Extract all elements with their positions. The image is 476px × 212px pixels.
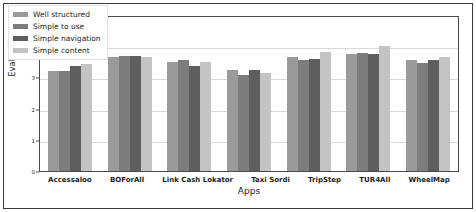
- x-axis-title: Apps: [39, 186, 459, 196]
- legend-swatch: [13, 36, 28, 41]
- chart-legend: Well structuredSimple to useSimple navig…: [8, 5, 108, 60]
- bar-group: [108, 17, 152, 171]
- bar: [406, 60, 417, 171]
- bar: [379, 46, 390, 171]
- bar: [200, 62, 211, 171]
- legend-label: Well structured: [33, 10, 90, 19]
- legend-swatch: [13, 12, 28, 17]
- bar-group: [346, 17, 390, 171]
- legend-item: Simple navigation: [13, 33, 101, 44]
- legend-item: Simple to use: [13, 21, 101, 32]
- legend-swatch: [13, 24, 28, 29]
- bar: [81, 64, 92, 171]
- bar: [357, 53, 368, 171]
- bar: [59, 71, 70, 171]
- bar: [346, 54, 357, 171]
- y-tick-label: 1: [32, 138, 36, 144]
- bar: [227, 70, 238, 171]
- bar: [287, 57, 298, 171]
- legend-label: Simple content: [33, 46, 90, 55]
- bar: [309, 59, 320, 171]
- bar: [439, 57, 450, 171]
- bar-group: [287, 17, 331, 171]
- legend-label: Simple navigation: [33, 34, 101, 43]
- bar: [428, 60, 439, 171]
- bar: [130, 56, 141, 171]
- bar: [178, 60, 189, 171]
- bar: [249, 70, 260, 171]
- y-tick-label: 2: [32, 107, 36, 113]
- bar-chart-figure: Evaluation 012345 AccessalooBOForAllLink…: [0, 0, 476, 212]
- legend-swatch: [13, 48, 28, 53]
- bar-group: [406, 17, 450, 171]
- bar: [48, 71, 59, 171]
- bar: [320, 52, 331, 171]
- bar: [298, 60, 309, 171]
- bar-group: [167, 17, 211, 171]
- bar: [417, 63, 428, 171]
- y-tick-label: 3: [32, 75, 36, 81]
- bar: [167, 62, 178, 171]
- legend-item: Simple content: [13, 45, 101, 56]
- bar: [368, 54, 379, 171]
- bar: [108, 57, 119, 171]
- legend-label: Simple to use: [33, 22, 84, 31]
- bar: [70, 66, 81, 171]
- bar: [260, 73, 271, 171]
- bar: [189, 66, 200, 171]
- bar: [238, 75, 249, 171]
- legend-item: Well structured: [13, 9, 101, 20]
- y-tick-label: 0: [32, 169, 36, 175]
- bar: [141, 57, 152, 171]
- bar-group: [227, 17, 271, 171]
- bar: [119, 56, 130, 171]
